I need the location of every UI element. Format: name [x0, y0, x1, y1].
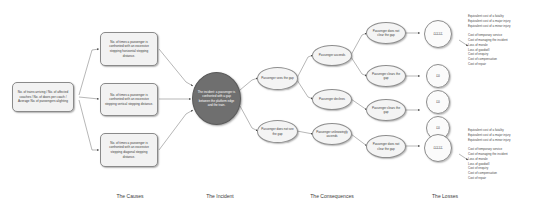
consequence-not-clear-gap-bottom-label: Passenger does not clear the gap — [369, 142, 403, 151]
loss-circle-zero-1-label: £0 — [436, 74, 440, 78]
cause-box-diagonal-label: No. of times a passenger is confronted w… — [104, 141, 154, 160]
loss-cost-managing-incident-bottom: Cost of managing the incident — [468, 152, 508, 157]
column-caption-causes-label: The Causes — [117, 193, 144, 199]
cause-driver-box[interactable]: No. of trains arriving / No. of affected… — [12, 82, 74, 112]
consequence-clears-gap-lower[interactable]: Passenger clears the gap — [366, 99, 406, 121]
column-caption-incident-label: The Incident — [206, 193, 234, 199]
column-caption-consequences-label: The Consequences — [310, 193, 353, 199]
consequence-clears-gap-lower-label: Passenger clears the gap — [369, 106, 403, 115]
loss-circle-zero-1[interactable]: £0 — [426, 64, 450, 88]
column-caption-consequences: The Consequences — [287, 193, 377, 199]
connector-edges — [0, 0, 543, 216]
cause-box-vertical-label: No. of times a passenger is confronted w… — [104, 93, 154, 107]
loss-equivalent-costs-bottom: Equivalent cost of a fatality Equivalent… — [468, 128, 511, 143]
consequence-does-not-see-gap-label: Passenger does not see the gap — [260, 127, 295, 136]
loss-equivalent-cost-minor-bottom: Equivalent cost of a minor injury — [468, 138, 511, 143]
consequence-unknowingly-ascends[interactable]: Passenger unknowingly ascends — [312, 123, 352, 145]
consequence-clears-gap-upper[interactable]: Passenger clears the gap — [366, 65, 406, 87]
loss-cost-managing-incident-top: Cost of managing the incident — [468, 38, 508, 43]
consequence-not-clear-gap-top[interactable]: Passenger does not clear the gap — [366, 22, 406, 44]
incident-label: The incident: a passenger is confronted … — [197, 90, 236, 107]
loss-circle-zero-3-label: £0 — [436, 126, 440, 130]
cause-box-horizontal-label: No. of times a passenger is confronted w… — [104, 40, 154, 59]
diagram-canvas: No. of trains arriving / No. of affected… — [0, 0, 543, 216]
cause-box-diagonal[interactable]: No. of times a passenger is confronted w… — [100, 133, 158, 167]
column-caption-incident: The Incident — [175, 193, 265, 199]
loss-circle-top[interactable]: £££££ — [424, 20, 452, 48]
consequence-declines[interactable]: Passenger declines — [312, 89, 352, 110]
consequence-not-clear-gap-bottom[interactable]: Passenger does not clear the gap — [366, 135, 406, 158]
consequence-not-clear-gap-top-label: Passenger does not clear the gap — [369, 29, 403, 38]
loss-cost-repair-top: Cost of repair — [468, 62, 508, 67]
consequence-ascends-label: Passenger ascends — [319, 53, 345, 57]
column-caption-losses-label: The Losses — [432, 193, 458, 199]
consequence-ascends[interactable]: Passenger ascends — [312, 45, 352, 66]
consequence-clears-gap-upper-label: Passenger clears the gap — [369, 72, 403, 81]
consequence-sees-gap-label: Passenger sees the gap — [261, 76, 293, 80]
loss-circle-bottom[interactable]: £££££ — [424, 134, 452, 162]
column-caption-losses: The Losses — [400, 193, 490, 199]
consequence-does-not-see-gap[interactable]: Passenger does not see the gap — [257, 120, 298, 143]
loss-circle-zero-2[interactable]: £0 — [426, 90, 450, 114]
consequence-unknowingly-ascends-label: Passenger unknowingly ascends — [315, 130, 349, 139]
loss-incident-costs-bottom: Cost of temporary service Cost of managi… — [468, 147, 508, 181]
loss-equivalent-cost-major-bottom: Equivalent cost of a major injury — [468, 133, 511, 138]
cause-driver-label: No. of trains arriving / No. of affected… — [16, 90, 70, 104]
consequence-declines-label: Passenger declines — [319, 97, 345, 101]
loss-equivalent-cost-major-top: Equivalent cost of a major injury — [468, 19, 511, 24]
column-caption-causes: The Causes — [85, 193, 175, 199]
consequence-sees-gap[interactable]: Passenger sees the gap — [257, 67, 298, 90]
cause-box-horizontal[interactable]: No. of times a passenger is confronted w… — [100, 32, 158, 66]
loss-equivalent-costs-top: Equivalent cost of a fatality Equivalent… — [468, 14, 511, 29]
loss-circle-bottom-label: £££££ — [434, 146, 443, 150]
loss-cost-repair-bottom: Cost of repair — [468, 176, 508, 181]
loss-circle-zero-2-label: £0 — [436, 100, 440, 104]
cause-box-vertical[interactable]: No. of times a passenger is confronted w… — [100, 83, 158, 116]
loss-equivalent-cost-minor-top: Equivalent cost of a minor injury — [468, 24, 511, 29]
loss-incident-costs-top: Cost of temporary service Cost of managi… — [468, 33, 508, 67]
incident-node[interactable]: The incident: a passenger is confronted … — [192, 72, 241, 125]
loss-circle-top-label: £££££ — [434, 32, 443, 36]
